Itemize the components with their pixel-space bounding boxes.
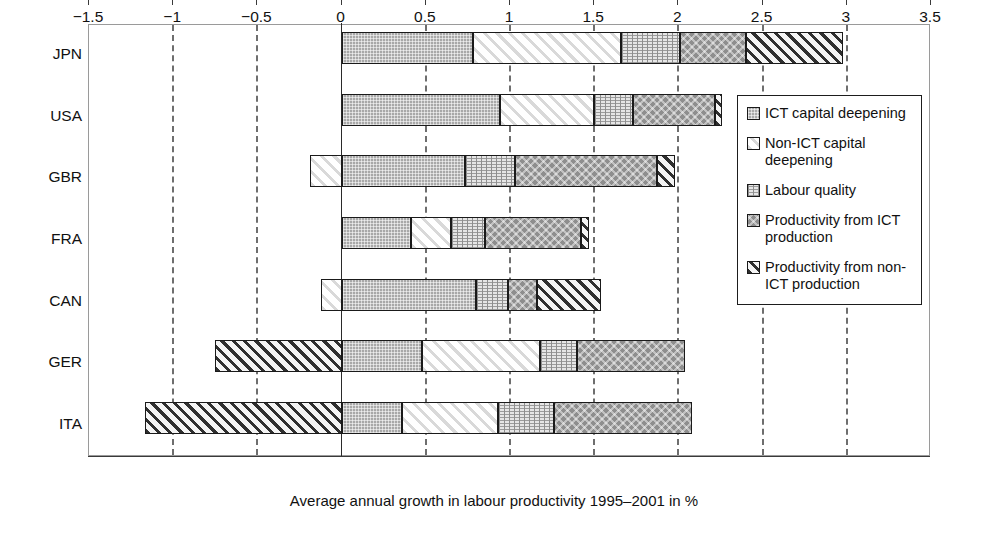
bar-row xyxy=(89,340,929,388)
bar-segment xyxy=(577,340,685,372)
x-tick-label: 0 xyxy=(311,8,371,26)
x-tick xyxy=(172,0,173,5)
bar-segment xyxy=(402,402,498,434)
bar-segment xyxy=(321,279,341,311)
x-axis xyxy=(88,456,930,457)
x-tick-label: −1 xyxy=(142,8,202,26)
bar-segment xyxy=(342,217,411,249)
legend-item: Productivity from non-ICT production xyxy=(747,259,914,293)
legend-swatch-ict xyxy=(747,107,760,120)
x-tick xyxy=(762,0,763,5)
y-axis-label-ita: ITA xyxy=(0,415,82,433)
legend-label: Labour quality xyxy=(765,182,856,199)
bar-segment xyxy=(621,32,680,64)
y-axis-label-gbr: GBR xyxy=(0,168,82,186)
y-axis-label-jpn: JPN xyxy=(0,45,82,63)
legend-item: ICT capital deepening xyxy=(747,105,914,122)
y-axis-label-can: CAN xyxy=(0,292,82,310)
bar-segment xyxy=(537,279,601,311)
bar-segment xyxy=(657,155,676,187)
x-tick xyxy=(425,0,426,5)
legend-label: ICT capital deepening xyxy=(765,105,906,122)
bar-segment xyxy=(342,340,423,372)
legend-swatch-labour xyxy=(747,184,760,197)
bar-segment xyxy=(476,279,508,311)
bar-segment xyxy=(508,279,537,311)
bar-segment xyxy=(411,217,451,249)
legend-item: Non-ICT capital deepening xyxy=(747,135,914,169)
bar-row xyxy=(89,32,929,80)
x-tick-label: 2.5 xyxy=(732,8,792,26)
bar-segment xyxy=(310,155,342,187)
x-tick xyxy=(509,0,510,5)
bar-segment xyxy=(746,32,844,64)
x-tick-label: 1 xyxy=(479,8,539,26)
bar-segment xyxy=(145,402,342,434)
bar-segment xyxy=(342,32,473,64)
legend-item: Productivity from ICT production xyxy=(747,212,914,246)
bar-segment xyxy=(342,402,403,434)
legend-label: Productivity from ICT production xyxy=(765,212,914,246)
x-tick xyxy=(88,0,89,5)
bar-segment xyxy=(500,94,594,126)
bar-segment xyxy=(680,32,746,64)
bar-segment xyxy=(581,217,589,249)
x-tick-label: −1.5 xyxy=(58,8,118,26)
bar-segment xyxy=(594,94,633,126)
x-tick-label: 2 xyxy=(647,8,707,26)
x-tick-label: 3 xyxy=(816,8,876,26)
x-tick-label: 3.5 xyxy=(900,8,960,26)
x-tick xyxy=(593,0,594,5)
x-tick xyxy=(846,0,847,5)
bar-segment xyxy=(215,340,341,372)
x-tick xyxy=(341,0,342,5)
bar-segment xyxy=(498,402,554,434)
y-axis-label-fra: FRA xyxy=(0,230,82,248)
bar-segment xyxy=(554,402,692,434)
bar-segment xyxy=(422,340,540,372)
chart-legend: ICT capital deepeningNon-ICT capital dee… xyxy=(737,95,922,305)
bar-segment xyxy=(515,155,656,187)
bar-segment xyxy=(473,32,621,64)
bar-segment xyxy=(342,279,477,311)
x-tick xyxy=(677,0,678,5)
bar-segment xyxy=(485,217,581,249)
bar-segment xyxy=(451,217,485,249)
bar-segment xyxy=(342,94,500,126)
legend-label: Productivity from non-ICT production xyxy=(765,259,914,293)
legend-swatch-nonictprod xyxy=(747,261,760,274)
x-tick xyxy=(256,0,257,5)
x-tick xyxy=(930,0,931,5)
legend-swatch-ictprod xyxy=(747,214,760,227)
bar-row xyxy=(89,402,929,450)
x-axis-title: Average annual growth in labour producti… xyxy=(0,492,988,509)
bar-segment xyxy=(715,94,722,126)
chart-container: JPNUSAGBRFRACANGERITA −1.5−1−0.500.511.5… xyxy=(0,0,988,535)
x-tick-label: 0.5 xyxy=(395,8,455,26)
x-tick-label: −0.5 xyxy=(226,8,286,26)
legend-item: Labour quality xyxy=(747,182,914,199)
bar-segment xyxy=(342,155,465,187)
legend-label: Non-ICT capital deepening xyxy=(765,135,914,169)
bar-segment xyxy=(633,94,716,126)
y-axis-label-ger: GER xyxy=(0,353,82,371)
legend-swatch-nonict xyxy=(747,137,760,150)
y-axis-label-usa: USA xyxy=(0,107,82,125)
bar-segment xyxy=(465,155,516,187)
x-tick-label: 1.5 xyxy=(563,8,623,26)
bar-segment xyxy=(540,340,577,372)
